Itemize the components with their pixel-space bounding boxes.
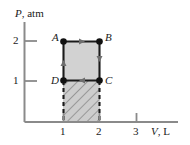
point-label-c: C: [105, 75, 112, 86]
y-axis-variable: P: [15, 7, 22, 19]
hatched-work-region: [63, 81, 100, 122]
point-label-a: A: [52, 32, 59, 43]
x-tick-label-1: 1: [60, 126, 66, 137]
point-a-dot: [60, 38, 67, 45]
point-b-dot: [96, 38, 103, 45]
x-axis-variable: V: [151, 125, 158, 137]
point-c-dot: [96, 77, 103, 84]
x-axis-title: V, L: [151, 126, 170, 137]
y-tick-label-1: 1: [13, 75, 19, 86]
x-tick-label-2: 2: [96, 126, 102, 137]
x-axis-unit: , L: [158, 125, 170, 137]
point-label-d: D: [51, 75, 59, 86]
pressure-volume-diagram: P, atm 2 1 1 2 3 V, L A B C D: [0, 0, 190, 145]
y-axis-unit: , atm: [22, 7, 44, 19]
x-tick-label-3: 3: [133, 126, 139, 137]
diagram-canvas: [0, 0, 190, 145]
y-axis-title: P, atm: [15, 8, 44, 19]
point-label-b: B: [105, 32, 112, 43]
cycle-fill-region: [63, 41, 100, 81]
y-tick-label-2: 2: [13, 35, 19, 46]
point-d-dot: [60, 77, 67, 84]
